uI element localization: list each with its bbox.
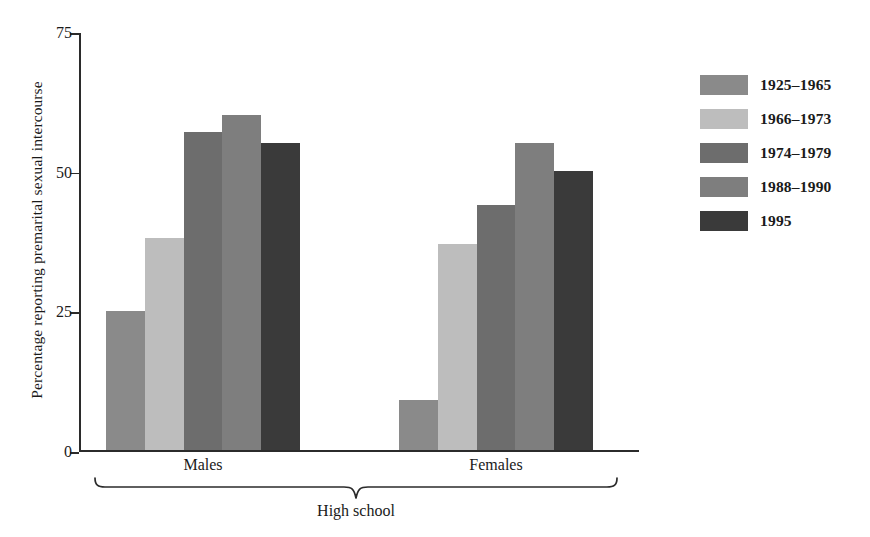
- legend-label: 1995: [760, 212, 792, 230]
- legend-label: 1974–1979: [760, 144, 832, 162]
- legend-swatch-icon: [700, 177, 748, 197]
- bar-males-1974-1979: [184, 132, 223, 450]
- bar-males-1995: [261, 143, 300, 450]
- bar-females-1974-1979: [477, 205, 516, 451]
- y-tick-label: 75: [56, 24, 72, 42]
- legend-swatch-icon: [700, 75, 748, 95]
- y-axis-title: Percentage reporting premarital sexual i…: [22, 10, 52, 470]
- legend-item: 1966–1973: [700, 102, 868, 136]
- legend-swatch-icon: [700, 143, 748, 163]
- legend-item: 1995: [700, 204, 868, 238]
- bar-females-1995: [554, 171, 593, 450]
- group-label-females: Females: [399, 456, 593, 474]
- bracket-label: High school: [92, 502, 620, 520]
- y-tick-label: 25: [56, 303, 72, 321]
- bar-chart-figure: Percentage reporting premarital sexual i…: [0, 0, 870, 537]
- bar-females-1988-1990: [515, 143, 554, 450]
- bar-group-females: [399, 31, 593, 450]
- bar-females-1966-1973: [438, 244, 477, 451]
- legend-swatch-icon: [700, 211, 748, 231]
- y-tick-label: 0: [64, 443, 72, 461]
- bar-females-1925-1965: [399, 400, 438, 450]
- high-school-bracket: [92, 476, 620, 502]
- group-label-males: Males: [106, 456, 300, 474]
- x-axis-line: [79, 450, 639, 452]
- y-axis-line: [79, 33, 81, 452]
- bar-males-1966-1973: [145, 238, 184, 450]
- bar-males-1988-1990: [222, 115, 261, 450]
- legend-item: 1974–1979: [700, 136, 868, 170]
- legend-item: 1988–1990: [700, 170, 868, 204]
- chart-legend: 1925–19651966–19731974–19791988–19901995: [700, 68, 868, 238]
- bar-males-1925-1965: [106, 311, 145, 451]
- legend-label: 1925–1965: [760, 76, 832, 94]
- legend-label: 1966–1973: [760, 110, 832, 128]
- y-tick-label: 50: [56, 164, 72, 182]
- legend-swatch-icon: [700, 109, 748, 129]
- legend-item: 1925–1965: [700, 68, 868, 102]
- plot-area: 0255075: [79, 33, 639, 452]
- legend-label: 1988–1990: [760, 178, 832, 196]
- bar-group-males: [106, 31, 300, 450]
